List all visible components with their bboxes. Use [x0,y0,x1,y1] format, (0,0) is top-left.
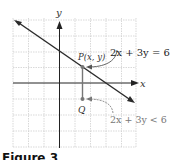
y-axis-label: y [55,7,62,18]
point-q [81,97,85,101]
x-axis-arrow-icon [131,80,139,86]
figure-caption: Figure 3 [2,152,58,160]
line-arrow-lower-right-icon [127,96,135,103]
y-axis-arrow-icon [57,21,63,29]
pointer-arrow-equation-icon [86,65,92,70]
boundary-line [16,21,132,101]
coordinate-plane-diagram: y x 2x + 3y = 6 P(x, y) Q 2x + 3y < 6 [0,0,173,160]
point-q-label: Q [78,105,86,115]
pointer-arrow-inequality-icon [86,97,92,102]
equation-label: 2x + 3y = 6 [110,47,170,58]
x-axis-label: x [140,78,146,89]
axes [13,26,134,148]
point-p [81,65,85,69]
inequality-label: 2x + 3y < 6 [110,114,167,125]
point-p-label: P(x, y) [77,52,105,62]
